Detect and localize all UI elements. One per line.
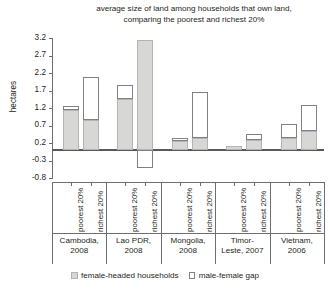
group-label-country: Vietnam,: [270, 236, 324, 246]
x-tick: [254, 182, 255, 186]
bar[interactable]: [83, 38, 99, 178]
bar[interactable]: [246, 38, 262, 178]
category-label: poorest 20%: [293, 182, 304, 232]
plot-area: 3.22.72.21.71.20.70.2-0.3-0.8: [52, 38, 324, 178]
bar-group: [161, 38, 215, 178]
legend-item-female-headed-households: female-headed households: [71, 271, 179, 280]
bar-segment-male-female-gap: [137, 150, 153, 168]
group-label-country: Timor-: [215, 236, 269, 246]
chart-title-line-1: average size of land among households th…: [62, 4, 326, 15]
y-tick-label: 1.2: [22, 103, 46, 112]
bar-segment-female-headed: [63, 110, 79, 150]
x-tick: [200, 182, 201, 186]
y-tick: -0.8: [49, 178, 53, 179]
y-tick-label: -0.3: [22, 155, 46, 164]
x-tick: [145, 182, 146, 186]
bar[interactable]: [226, 38, 242, 178]
bar-segment-female-headed: [172, 141, 188, 150]
group-label-year: 2006: [270, 246, 324, 256]
bar-group: [270, 38, 324, 178]
group-separator: [324, 182, 325, 264]
category-label: richest 20%: [95, 182, 106, 232]
bar-segment-female-headed: [246, 140, 262, 151]
bar-segment-male-female-gap: [172, 138, 188, 142]
bar[interactable]: [172, 38, 188, 178]
bar[interactable]: [301, 38, 317, 178]
group-label: Mongolia,2008: [161, 236, 215, 256]
bar-group: [215, 38, 269, 178]
category-label: poorest 20%: [238, 182, 249, 232]
y-axis-label: hectares: [9, 62, 18, 132]
bar-group: [106, 38, 160, 178]
group-label-country: Mongolia,: [161, 236, 215, 246]
bar-segment-female-headed: [226, 146, 242, 150]
group-label-country: Lao PDR,: [106, 236, 160, 246]
x-tick: [309, 182, 310, 186]
y-tick-label: 2.2: [22, 68, 46, 77]
y-tick-label: -0.8: [22, 173, 46, 182]
category-label: richest 20%: [204, 182, 215, 232]
y-tick-label: 0.7: [22, 120, 46, 129]
bar-segment-female-headed: [301, 131, 317, 150]
x-tick: [125, 182, 126, 186]
bar-segment-male-female-gap: [192, 92, 208, 138]
chart-title-line-2: comparing the poorest and richest 20%: [62, 15, 326, 26]
group-label-year: 2008: [52, 246, 106, 256]
group-label: Lao PDR,2008: [106, 236, 160, 256]
group-label-year: 2008: [161, 246, 215, 256]
bar-segment-female-headed: [281, 138, 297, 150]
x-tick: [91, 182, 92, 186]
x-tick: [289, 182, 290, 186]
bar[interactable]: [117, 38, 133, 178]
bar-segment-male-female-gap: [301, 105, 317, 131]
y-tick-label: 1.7: [22, 85, 46, 94]
chart-legend: female-headed households male-female gap: [0, 271, 330, 280]
group-label-year: Leste, 2007: [215, 246, 269, 256]
category-label: poorest 20%: [129, 182, 140, 232]
y-tick-label: 3.2: [22, 33, 46, 42]
bar[interactable]: [137, 38, 153, 178]
legend-swatch-gray-icon: [71, 272, 78, 279]
x-tick: [180, 182, 181, 186]
group-label: Cambodia,2008: [52, 236, 106, 256]
bar-segment-male-female-gap: [83, 77, 99, 121]
bar[interactable]: [192, 38, 208, 178]
bar-segment-female-headed: [192, 138, 208, 150]
y-tick-label: 2.7: [22, 50, 46, 59]
group-label-year: 2008: [106, 246, 160, 256]
bar[interactable]: [281, 38, 297, 178]
category-label: richest 20%: [258, 182, 269, 232]
x-tick: [234, 182, 235, 186]
legend-swatch-outline-icon: [189, 272, 196, 279]
category-axis: poorest 20%richest 20%poorest 20%richest…: [52, 182, 324, 264]
legend-item-male-female-gap: male-female gap: [189, 271, 259, 280]
category-label: richest 20%: [149, 182, 160, 232]
category-label: poorest 20%: [184, 182, 195, 232]
bar-segment-male-female-gap: [281, 124, 297, 138]
legend-label-female-headed-households: female-headed households: [81, 271, 179, 280]
bar-segment-female-headed: [83, 120, 99, 150]
chart-title: average size of land among households th…: [62, 4, 326, 25]
group-label: Timor-Leste, 2007: [215, 236, 269, 256]
bar-segment-male-female-gap: [63, 106, 79, 110]
y-tick-label: 0.2: [22, 138, 46, 147]
x-tick: [71, 182, 72, 186]
legend-label-male-female-gap: male-female gap: [199, 271, 259, 280]
category-axis-mid-rule: [52, 233, 324, 234]
bar[interactable]: [63, 38, 79, 178]
group-label: Vietnam,2006: [270, 236, 324, 256]
bar-segment-male-female-gap: [117, 85, 133, 99]
category-label: poorest 20%: [75, 182, 86, 232]
group-label-country: Cambodia,: [52, 236, 106, 246]
bar-segment-female-headed: [117, 99, 133, 150]
bar-group: [52, 38, 106, 178]
bar-segment-male-female-gap: [246, 134, 262, 139]
bar-segment-female-headed: [137, 40, 153, 150]
category-label: richest 20%: [313, 182, 324, 232]
